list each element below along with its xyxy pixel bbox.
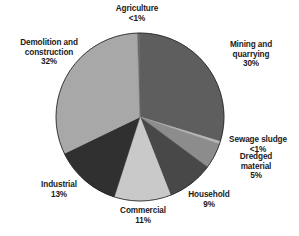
pie-label-sewage-name: Sewage sludge (218, 135, 298, 145)
pie-label-household: Household 9% (178, 190, 240, 209)
pie-label-industrial-value: 13% (26, 190, 92, 200)
pie-label-mining-line1: Mining and (205, 40, 297, 50)
pie-label-dredged-line2: material (219, 162, 293, 172)
pie-label-commercial-value: 11% (107, 216, 179, 226)
pie-label-agriculture-value: <1% (92, 14, 182, 24)
pie-chart-figure: Agriculture <1% Mining and quarrying 30%… (0, 0, 299, 236)
pie-label-dredged-line1: Dredged (219, 152, 293, 162)
pie-label-dredged-material: Dredged material 5% (219, 152, 293, 181)
pie-label-industrial: Industrial 13% (26, 180, 92, 199)
pie-label-household-value: 9% (178, 200, 240, 210)
pie-label-demolition-line2: construction (2, 48, 96, 58)
pie-label-household-name: Household (178, 190, 240, 200)
pie-label-dredged-value: 5% (219, 171, 293, 181)
pie-label-mining-line2: quarrying (205, 50, 297, 60)
pie-label-agriculture-name: Agriculture (92, 4, 182, 14)
pie-chart-canvas (0, 0, 299, 236)
pie-label-mining-value: 30% (205, 59, 297, 69)
pie-label-agriculture: Agriculture <1% (92, 4, 182, 23)
pie-label-commercial: Commercial 11% (107, 206, 179, 225)
pie-label-demolition-and-construction: Demolition and construction 32% (2, 38, 96, 67)
pie-label-demolition-line1: Demolition and (2, 38, 96, 48)
pie-label-demolition-value: 32% (2, 57, 96, 67)
pie-label-commercial-name: Commercial (107, 206, 179, 216)
pie-label-mining-and-quarrying: Mining and quarrying 30% (205, 40, 297, 69)
pie-label-industrial-name: Industrial (26, 180, 92, 190)
